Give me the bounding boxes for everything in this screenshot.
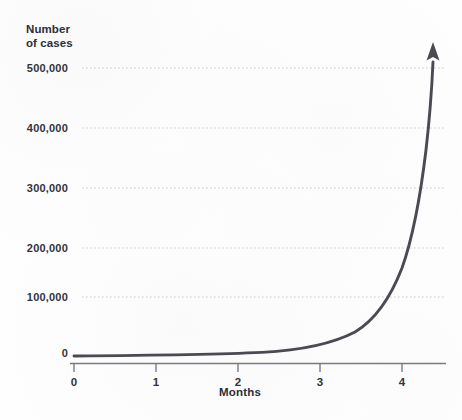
x-tick-label-4: 4 [399, 376, 406, 388]
x-tick-label-3: 3 [317, 376, 324, 388]
x-tick-label-1: 1 [153, 376, 160, 388]
x-axis-tick-labels: 0 1 2 3 4 Months [0, 0, 462, 420]
x-tick-label-0: 0 [71, 376, 78, 388]
x-axis-title: Months [219, 386, 261, 398]
exponential-growth-chart: Number of cases 500,000 400,000 300, [0, 0, 462, 420]
